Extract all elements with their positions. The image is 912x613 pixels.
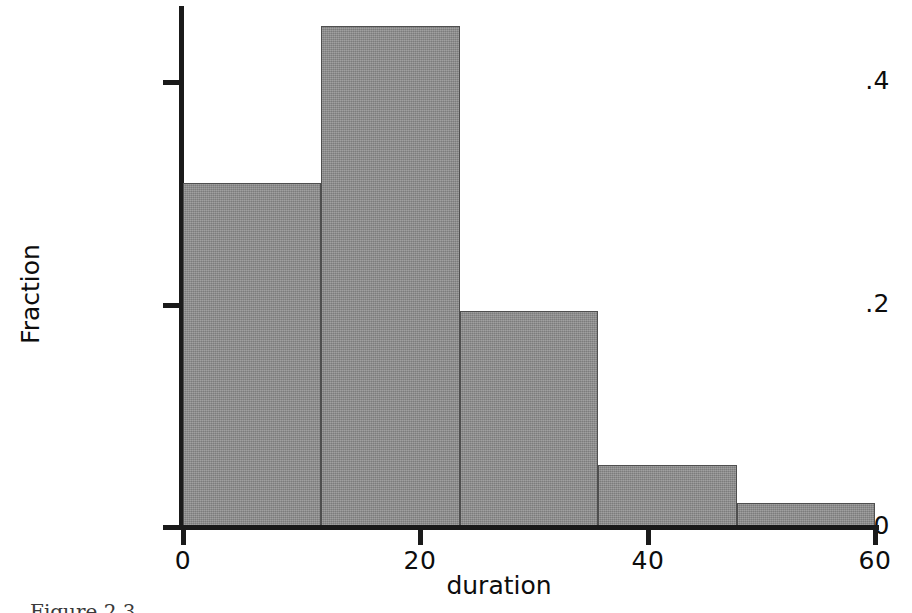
x-tick-label-20: 20 — [380, 548, 460, 573]
x-tick-label-0: 0 — [143, 548, 223, 573]
y-axis-title-text: Fraction — [17, 234, 45, 354]
bar-bin-2 — [460, 311, 598, 527]
x-tick-20 — [418, 529, 423, 545]
histogram-figure: Fraction .4 .2 0 0 20 40 60 duration Fig… — [0, 0, 912, 613]
x-tick-label-60: 60 — [835, 548, 912, 573]
y-axis-title: Fraction — [6, 214, 56, 374]
bar-bin-3 — [598, 465, 736, 527]
figure-caption-fragment: Figure 2.3 — [30, 601, 136, 613]
bar-bin-1 — [321, 26, 459, 527]
x-axis-line — [179, 525, 879, 530]
y-tick-0.2 — [163, 303, 180, 308]
bar-bin-4 — [737, 503, 875, 527]
bar-bin-0 — [183, 183, 321, 527]
plot-area — [183, 6, 875, 527]
x-tick-0 — [181, 529, 186, 545]
x-axis-title: duration — [0, 572, 912, 600]
y-tick-0.4 — [163, 80, 180, 85]
x-tick-40 — [646, 529, 651, 545]
x-axis-title-text: duration — [446, 572, 551, 600]
x-tick-label-40: 40 — [608, 548, 688, 573]
x-tick-60 — [873, 529, 878, 545]
y-tick-0 — [163, 525, 180, 530]
